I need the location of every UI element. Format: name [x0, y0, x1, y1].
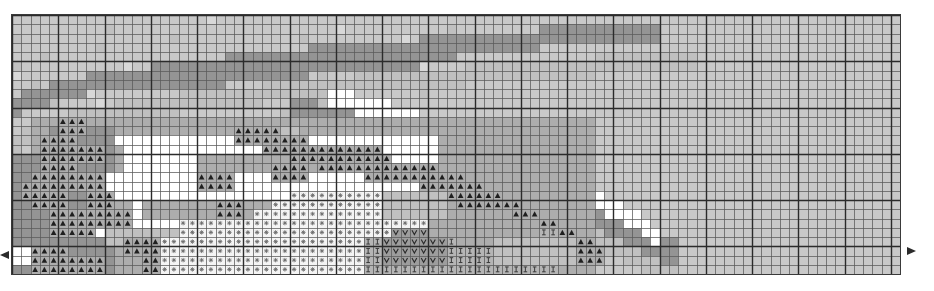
pattern-chart-page — [0, 0, 934, 291]
center-row-marker-left — [0, 251, 9, 259]
center-row-marker-right — [907, 247, 916, 255]
pattern-canvas — [12, 15, 900, 274]
cross-stitch-grid[interactable] — [11, 14, 901, 275]
